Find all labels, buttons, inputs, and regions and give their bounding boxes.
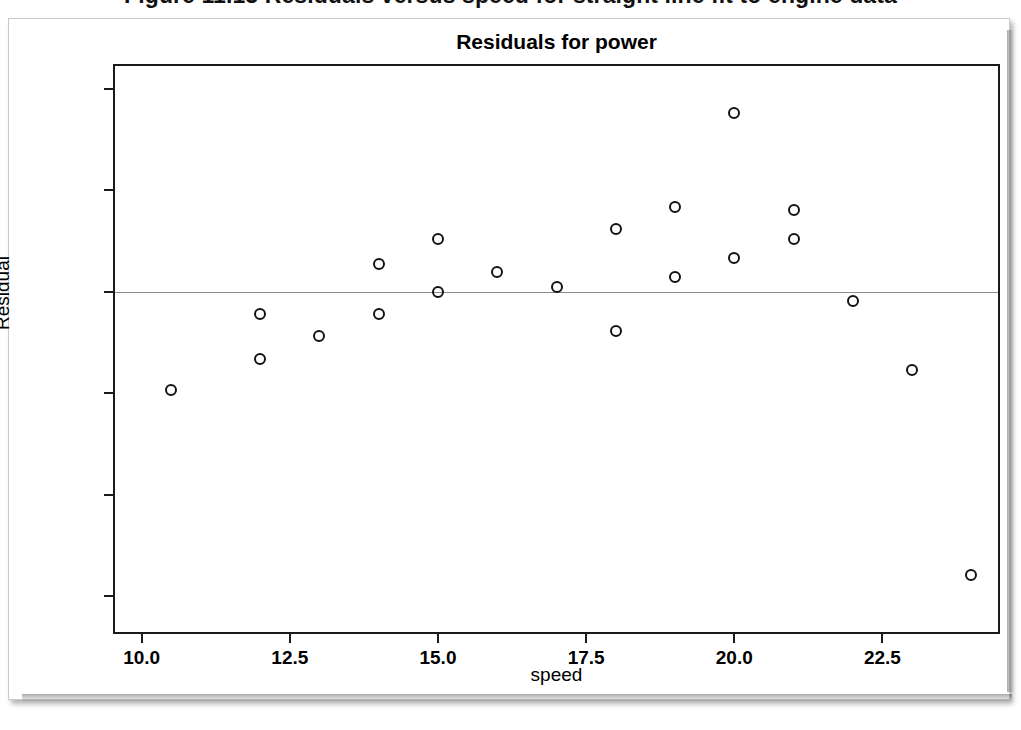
scatter-point <box>254 353 266 365</box>
figure-caption-clip: Figure 11.13 Residuals versus speed for … <box>0 0 1021 15</box>
y-axis-tick <box>104 595 115 597</box>
x-axis-tick <box>289 632 291 643</box>
scatter-point <box>669 201 681 213</box>
scatter-point <box>432 233 444 245</box>
scatter-point <box>610 325 622 337</box>
scatter-point <box>373 258 385 270</box>
scatter-point <box>669 271 681 283</box>
figure-caption: Figure 11.13 Residuals versus speed for … <box>0 0 1021 9</box>
paper-shadow-right <box>1007 30 1014 692</box>
plot-area: 420-2-4-610.012.515.017.520.022.5 <box>113 64 1000 634</box>
y-axis-tick <box>104 494 115 496</box>
scatter-point <box>165 384 177 396</box>
x-axis-tick <box>585 632 587 643</box>
x-axis-tick <box>733 632 735 643</box>
scatter-point <box>728 252 740 264</box>
scatter-point <box>847 295 859 307</box>
y-axis-title: Residual <box>0 256 14 330</box>
y-axis-tick <box>104 291 115 293</box>
scatter-point <box>788 204 800 216</box>
scatter-point <box>906 364 918 376</box>
scatter-point <box>728 107 740 119</box>
document-page: Figure 11.13 Residuals versus speed for … <box>0 0 1021 730</box>
scatter-point <box>254 308 266 320</box>
x-axis-tick <box>141 632 143 643</box>
scatter-point <box>788 233 800 245</box>
y-axis-tick <box>104 392 115 394</box>
scatter-point <box>313 330 325 342</box>
scatter-point <box>373 308 385 320</box>
x-axis-tick <box>437 632 439 643</box>
scatter-point <box>610 223 622 235</box>
paper-shadow-bottom <box>22 694 1012 702</box>
chart-title: Residuals for power <box>113 30 1000 54</box>
x-axis-title: speed <box>113 664 1000 686</box>
scatter-point <box>491 266 503 278</box>
y-axis-tick <box>104 88 115 90</box>
scatter-point <box>551 281 563 293</box>
scatter-point <box>432 286 444 298</box>
x-axis-tick <box>881 632 883 643</box>
scatter-point <box>965 569 977 581</box>
y-axis-tick <box>104 189 115 191</box>
